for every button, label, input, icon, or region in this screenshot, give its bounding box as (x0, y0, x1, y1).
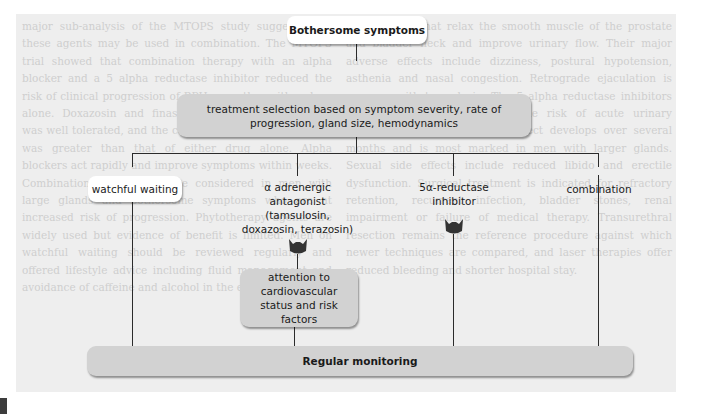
node-combination-text: combination (566, 183, 631, 195)
node-five-alpha-reductase: 5α-reductase inhibitor (416, 180, 492, 208)
connector-branch-five-alpha (453, 153, 454, 176)
node-alpha-adrenergic: α adrenergic antagonist (tamsulosin, dox… (240, 180, 355, 236)
page-corner-mark (0, 398, 7, 414)
node-watchful-waiting-text: watchful waiting (92, 182, 178, 196)
prostate-icon (288, 238, 308, 255)
connector-branch-combination (598, 153, 599, 167)
connector-horizontal-branch (132, 153, 599, 154)
node-regular-monitoring-text: Regular monitoring (303, 354, 418, 368)
connector-combination-to-monitoring (598, 175, 599, 357)
node-cardiovascular-attention: attention to cardiovascular status and r… (240, 269, 358, 327)
connector-branch-watchful (132, 153, 133, 167)
node-cardiovascular-attention-text: attention to cardiovascular status and r… (248, 270, 350, 326)
connector-alpha-to-cardio (297, 254, 298, 269)
connector-watchful-to-monitoring (132, 201, 133, 357)
node-regular-monitoring: Regular monitoring (87, 346, 633, 376)
node-treatment-selection: treatment selection based on symptom sev… (177, 94, 531, 137)
node-treatment-selection-text: treatment selection based on symptom sev… (195, 102, 513, 130)
node-combination: combination (558, 182, 640, 196)
node-watchful-waiting: watchful waiting (88, 176, 182, 202)
node-bothersome-symptoms-text: Bothersome symptoms (289, 23, 425, 37)
node-bothersome-symptoms: Bothersome symptoms (287, 16, 427, 44)
background-text-column-left: major sub-analysis of the MTOPS study su… (22, 18, 332, 297)
connector-branch-alpha (297, 153, 298, 176)
connector-five-alpha-to-monitoring (453, 234, 454, 357)
connector-selection-down (356, 136, 357, 153)
node-alpha-adrenergic-text: α adrenergic antagonist (tamsulosin, dox… (242, 181, 353, 235)
prostate-icon (444, 218, 464, 235)
background-text-column-right: preparations that relax the smooth muscl… (346, 18, 672, 279)
node-five-alpha-reductase-text: 5α-reductase inhibitor (419, 181, 489, 207)
connector-top-to-selection (356, 44, 357, 61)
